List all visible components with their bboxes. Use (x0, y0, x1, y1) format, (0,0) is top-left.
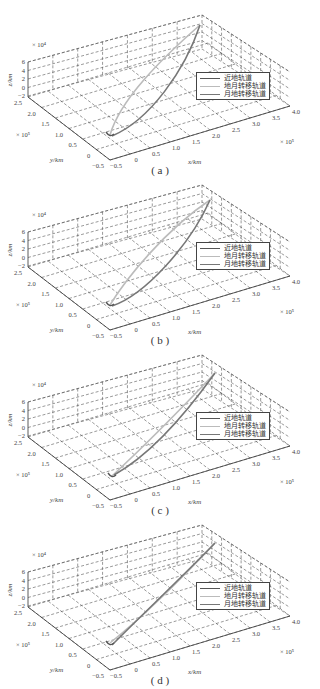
legend-item: 近地轨道 (200, 244, 266, 252)
svg-text:2: 2 (22, 75, 25, 82)
svg-text:3.5: 3.5 (272, 284, 280, 291)
svg-text:2: 2 (22, 245, 25, 252)
svg-text:2.5: 2.5 (14, 609, 22, 616)
svg-text:0: 0 (87, 662, 90, 669)
svg-text:0.5: 0.5 (152, 490, 160, 497)
svg-text:3.0: 3.0 (252, 290, 260, 297)
svg-text:× 10⁴: × 10⁴ (32, 381, 47, 388)
legend-line-icon (200, 426, 220, 427)
earth-moon-transfer-orbit (110, 25, 200, 135)
legend: 近地轨道地月转移轨道月地转移轨道 (196, 582, 270, 610)
svg-text:6: 6 (22, 58, 26, 65)
svg-text:y/km: y/km (49, 156, 63, 164)
legend: 近地轨道地月转移轨道月地转移轨道 (196, 412, 270, 440)
legend-item: 近地轨道 (200, 414, 266, 422)
svg-text:0.5: 0.5 (69, 651, 77, 658)
svg-text:4.0: 4.0 (292, 448, 300, 455)
legend-item: 月地转移轨道 (200, 430, 266, 438)
svg-text:−2: −2 (18, 92, 25, 99)
svg-text:3.5: 3.5 (272, 624, 280, 631)
svg-text:0: 0 (22, 424, 25, 431)
legend-item: 地月转移轨道 (200, 252, 266, 260)
legend-label: 地月转移轨道 (224, 592, 266, 600)
svg-text:2.0: 2.0 (212, 472, 220, 479)
figure-panel-c: 6420−2× 10⁴z/km2.52.01.51.00.50−0.5× 10⁵… (0, 340, 320, 512)
legend-item: 月地转移轨道 (200, 90, 266, 98)
svg-text:2.5: 2.5 (232, 126, 240, 133)
svg-text:4.0: 4.0 (292, 618, 300, 625)
svg-text:z/km: z/km (6, 244, 14, 258)
svg-text:0.5: 0.5 (69, 481, 77, 488)
svg-text:0.5: 0.5 (69, 141, 77, 148)
legend-line-icon (200, 418, 220, 419)
svg-text:0: 0 (22, 84, 25, 91)
legend-item: 近地轨道 (200, 74, 266, 82)
legend-label: 月地转移轨道 (224, 260, 266, 268)
legend-label: 月地转移轨道 (224, 90, 266, 98)
svg-text:4.0: 4.0 (292, 278, 300, 285)
svg-text:2.0: 2.0 (212, 642, 220, 649)
svg-text:2: 2 (22, 415, 25, 422)
legend-item: 月地转移轨道 (200, 260, 266, 268)
svg-text:0: 0 (87, 322, 90, 329)
svg-text:0.5: 0.5 (69, 311, 77, 318)
legend-label: 地月转移轨道 (224, 252, 266, 260)
svg-text:1.0: 1.0 (55, 471, 63, 478)
svg-text:0: 0 (87, 492, 90, 499)
legend-label: 近地轨道 (224, 244, 252, 252)
svg-text:2.0: 2.0 (212, 132, 220, 139)
svg-text:1.5: 1.5 (41, 630, 49, 637)
svg-text:× 10⁴: × 10⁴ (32, 211, 47, 218)
legend-label: 月地转移轨道 (224, 600, 266, 608)
svg-text:3.5: 3.5 (272, 114, 280, 121)
svg-text:0: 0 (134, 326, 137, 333)
svg-text:0: 0 (134, 496, 137, 503)
figure-panel-a: 6420−2× 10⁴z/km2.52.01.51.00.50−0.5× 10⁵… (0, 0, 320, 172)
svg-text:1.0: 1.0 (172, 314, 180, 321)
svg-text:2.5: 2.5 (232, 636, 240, 643)
svg-text:2.5: 2.5 (14, 99, 22, 106)
svg-text:6: 6 (22, 398, 26, 405)
svg-text:−2: −2 (18, 602, 25, 609)
svg-text:1.0: 1.0 (55, 131, 63, 138)
svg-text:z/km: z/km (6, 584, 14, 598)
svg-text:−2: −2 (18, 432, 25, 439)
svg-text:3.0: 3.0 (252, 460, 260, 467)
svg-text:1.5: 1.5 (192, 648, 200, 655)
legend-label: 地月转移轨道 (224, 82, 266, 90)
svg-text:0.5: 0.5 (152, 150, 160, 157)
legend-line-icon (200, 248, 220, 249)
legend-item: 月地转移轨道 (200, 600, 266, 608)
svg-text:1.0: 1.0 (172, 484, 180, 491)
legend-line-icon (200, 256, 220, 257)
svg-text:× 10⁴: × 10⁴ (32, 41, 47, 48)
svg-text:× 10⁵: × 10⁵ (280, 308, 294, 315)
svg-text:4: 4 (22, 67, 26, 74)
plot-3d: 6420−2× 10⁴z/km2.52.01.51.00.50−0.5× 10⁵… (0, 340, 320, 512)
svg-text:1.0: 1.0 (172, 654, 180, 661)
svg-text:0: 0 (134, 666, 137, 673)
svg-text:1.0: 1.0 (55, 301, 63, 308)
svg-text:1.0: 1.0 (172, 144, 180, 151)
svg-text:1.0: 1.0 (55, 641, 63, 648)
svg-text:× 10⁵: × 10⁵ (280, 138, 294, 145)
svg-text:3.0: 3.0 (252, 120, 260, 127)
svg-text:−2: −2 (18, 262, 25, 269)
panel-caption: ( d ) (0, 674, 320, 686)
legend-item: 地月转移轨道 (200, 422, 266, 430)
svg-text:× 10⁵: × 10⁵ (16, 301, 30, 308)
plot-3d: 6420−2× 10⁴z/km2.52.01.51.00.50−0.5× 10⁵… (0, 170, 320, 342)
svg-text:× 10⁵: × 10⁵ (16, 471, 30, 478)
legend-line-icon (200, 78, 220, 79)
svg-text:4: 4 (22, 237, 26, 244)
legend-item: 近地轨道 (200, 584, 266, 592)
figure-panel-b: 6420−2× 10⁴z/km2.52.01.51.00.50−0.5× 10⁵… (0, 170, 320, 342)
svg-text:0: 0 (87, 152, 90, 159)
svg-text:2: 2 (22, 585, 25, 592)
svg-text:0: 0 (22, 594, 25, 601)
svg-text:6: 6 (22, 568, 26, 575)
svg-text:1.5: 1.5 (192, 138, 200, 145)
legend-line-icon (200, 588, 220, 589)
svg-text:3.0: 3.0 (252, 630, 260, 637)
svg-text:4.0: 4.0 (292, 108, 300, 115)
